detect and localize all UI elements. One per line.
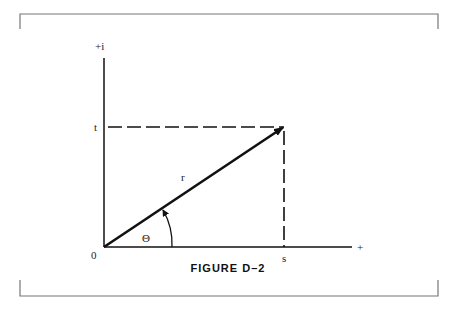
frame-bottom-bracket	[20, 280, 438, 296]
r-label: r	[181, 171, 185, 183]
vector-diagram: +i t r Θ 0 s + FIGURE D–2	[0, 0, 450, 312]
figure-caption: FIGURE D–2	[191, 262, 266, 274]
angle-arc-icon	[163, 210, 172, 247]
theta-label: Θ	[142, 232, 150, 244]
s-label: s	[282, 252, 286, 264]
y-axis-label: +i	[95, 40, 104, 52]
frame-top-bracket	[20, 14, 438, 29]
x-axis-label: +	[357, 241, 363, 253]
vector-r-arrow	[104, 128, 283, 248]
origin-label: 0	[91, 249, 97, 261]
t-label: t	[94, 121, 97, 133]
figure-frame	[20, 14, 438, 296]
